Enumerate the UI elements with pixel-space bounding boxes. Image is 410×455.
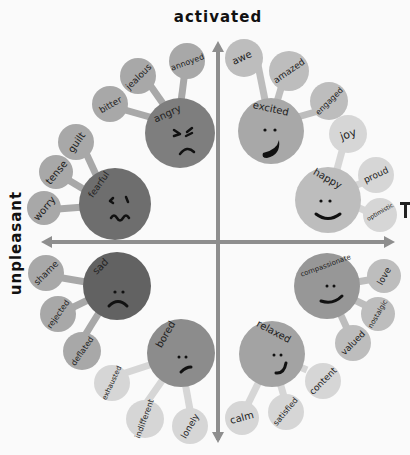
cluster-compassionate: love nostalgic valued compassionate	[294, 253, 401, 361]
arrow-right-icon	[384, 236, 395, 248]
cluster-happy: joy proud optimistic happy	[295, 115, 397, 233]
arrow-left-icon	[41, 236, 52, 248]
axis-label-activated: activated	[174, 8, 262, 26]
bubble-sad	[83, 252, 151, 320]
cluster-angry: bitter jealous annoyed angry	[92, 43, 215, 168]
cluster-sad: shame rejected deflated sad	[28, 252, 151, 370]
bubble-bored	[147, 319, 215, 387]
arrow-up-icon	[212, 41, 224, 52]
cluster-bored: exhausted indifferent lonely bored	[94, 319, 215, 444]
axis-label-unpleasant: unpleasant	[7, 191, 25, 295]
cluster-excited: awe amazed engaged excited	[225, 39, 348, 164]
cluster-relaxed: content satisfied calm relaxed	[225, 318, 341, 435]
bubble-fearful	[79, 168, 151, 240]
emotion-wheel-diagram: activated unpleasant bitter jealous anno…	[0, 0, 410, 455]
arrow-down-icon	[212, 432, 224, 443]
cluster-fearful: worry tense guilt fearful	[27, 124, 151, 240]
